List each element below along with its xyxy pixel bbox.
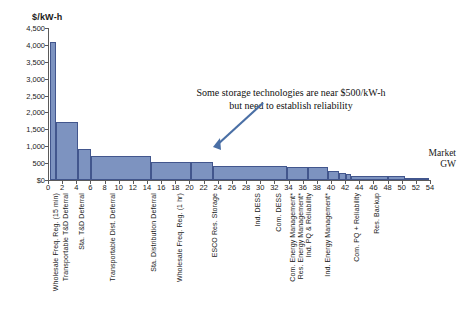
category-label: Ind. Energy Management*	[324, 193, 331, 277]
x-tick-mark	[345, 181, 346, 184]
x-tick-mark	[373, 181, 374, 184]
y-axis-title: $/kW-h	[32, 12, 63, 22]
y-tick-mark	[45, 62, 49, 63]
x-tick-mark	[147, 181, 148, 184]
x-tick-mark	[105, 181, 106, 184]
y-tick-mark	[45, 146, 49, 147]
x-tick-mark	[260, 181, 261, 184]
category-label: Res. Energy Management*	[297, 193, 304, 279]
x-tick-mark	[204, 181, 205, 184]
x-tick-label: 36	[298, 183, 306, 192]
x-tick-mark	[303, 181, 304, 184]
y-tick-label: 4,500	[26, 24, 45, 33]
y-tick-label: 1,500	[26, 125, 45, 134]
y-tick-mark	[45, 129, 49, 130]
x-tick-mark	[189, 181, 190, 184]
x-tick-label: 14	[143, 183, 151, 192]
bar	[328, 171, 339, 180]
bar	[191, 162, 213, 180]
category-label: ESCO Res. Storage	[211, 193, 218, 257]
category-label: Sta. T&D Deferral	[78, 193, 85, 250]
bar	[151, 162, 191, 180]
y-tick-label: 2,000	[26, 108, 45, 117]
x-tick-mark	[359, 181, 360, 184]
category-label: Transportable Dist. Deferral	[109, 193, 116, 282]
y-tick-mark	[45, 112, 49, 113]
y-tick-label: 3,000	[26, 74, 45, 83]
x-tick-mark	[402, 181, 403, 184]
x-tick-label: 4	[74, 183, 78, 192]
x-tick-label: 24	[214, 183, 222, 192]
y-tick-mark	[45, 28, 49, 29]
category-label: Res. Backup	[373, 193, 380, 234]
x-tick-mark	[175, 181, 176, 184]
callout-arrow-icon	[207, 100, 267, 155]
x-tick-label: 26	[228, 183, 236, 192]
bar	[91, 156, 151, 180]
market-note-line-2: GW	[404, 159, 456, 170]
y-tick-label: 500	[32, 159, 45, 168]
x-tick-mark	[218, 181, 219, 184]
y-tick-mark	[45, 96, 49, 97]
x-tick-mark	[119, 181, 120, 184]
x-tick-mark	[274, 181, 275, 184]
y-tick-mark	[45, 45, 49, 46]
bar	[213, 166, 287, 180]
x-tick-label: 32	[270, 183, 278, 192]
x-tick-label: 18	[171, 183, 179, 192]
x-tick-mark	[133, 181, 134, 184]
x-tick-label: 38	[313, 183, 321, 192]
y-tick-label: 3,500	[26, 57, 45, 66]
x-tick-label: 42	[341, 183, 349, 192]
x-tick-label: 6	[88, 183, 92, 192]
x-tick-label: 28	[242, 183, 250, 192]
x-tick-mark	[430, 181, 431, 184]
x-tick-label: 12	[129, 183, 137, 192]
x-tick-mark	[289, 181, 290, 184]
category-label: Wholesale Freq. Reg. (1 hr)	[176, 193, 183, 282]
bar	[388, 176, 405, 180]
x-tick-label: 52	[412, 183, 420, 192]
category-label: Transportable T&D Deferral	[62, 193, 69, 281]
bar	[78, 149, 91, 180]
x-tick-label: 34	[284, 183, 292, 192]
x-tick-label: 30	[256, 183, 264, 192]
market-axis-note: Market GW	[404, 148, 456, 170]
category-labels: Wholesale Freq. Reg. (15 min)Transportab…	[0, 193, 458, 328]
x-tick-label: 46	[369, 183, 377, 192]
y-tick-label: $0	[37, 176, 45, 185]
bar	[56, 122, 78, 180]
x-tick-mark	[232, 181, 233, 184]
callout-line-2: but need to establish reliability	[162, 99, 420, 112]
y-tick-mark	[45, 79, 49, 80]
category-label: Com. Energy Management*	[289, 193, 296, 282]
x-tick-label: 54	[426, 183, 434, 192]
y-tick-label: 2,500	[26, 91, 45, 100]
bar	[405, 178, 429, 180]
x-tick-mark	[76, 181, 77, 184]
x-tick-mark	[161, 181, 162, 184]
x-tick-label: 2	[60, 183, 64, 192]
category-label: Wholesale Freq. Reg. (15 min)	[52, 193, 59, 291]
x-tick-label: 22	[199, 183, 207, 192]
category-label: Com. DESS	[275, 193, 282, 232]
category-label: Ind. PQ & Reliability	[305, 193, 312, 257]
y-tick-label: 4,000	[26, 40, 45, 49]
x-tick-label: 48	[383, 183, 391, 192]
x-tick-label: 20	[185, 183, 193, 192]
x-tick-mark	[416, 181, 417, 184]
x-tick-label: 50	[398, 183, 406, 192]
x-tick-mark	[388, 181, 389, 184]
x-tick-label: 8	[102, 183, 106, 192]
x-tick-label: 10	[115, 183, 123, 192]
x-tick-label: 44	[355, 183, 363, 192]
callout-line-1: Some storage technologies are near $500/…	[162, 86, 420, 99]
callout-annotation: Some storage technologies are near $500/…	[162, 86, 420, 112]
y-tick-mark	[45, 163, 49, 164]
market-note-line-1: Market	[404, 148, 456, 159]
x-tick-mark	[48, 181, 49, 184]
category-label: Com. PQ + Reliability	[353, 193, 360, 262]
x-tick-mark	[62, 181, 63, 184]
y-tick-label: 1,000	[26, 142, 45, 151]
chart-figure: $/kW-h $05001,0001,5002,0002,5003,0003,5…	[0, 0, 458, 328]
